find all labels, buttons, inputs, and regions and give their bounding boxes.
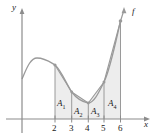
region-label-a2: A2 [74, 107, 83, 118]
region-a1-fill [55, 65, 72, 119]
curve-label-f: f [132, 7, 135, 16]
region-label-a3-index: 3 [97, 112, 100, 118]
region-label-a1-index: 1 [63, 104, 66, 110]
curve-arrow-head [122, 7, 127, 13]
x-tick-label-5: 5 [101, 124, 106, 133]
x-tick-label-2: 2 [52, 124, 57, 133]
x-tick-label-4: 4 [85, 124, 90, 133]
y-axis-arrow-head [20, 8, 25, 14]
x-axis-label: x [144, 120, 148, 129]
region-label-a4-index: 4 [114, 104, 117, 110]
x-tick-label-3: 3 [69, 124, 74, 133]
y-axis-label: y [12, 3, 16, 12]
region-label-a3: A3 [91, 107, 100, 118]
region-label-a4: A4 [108, 99, 117, 110]
dot-x6 [119, 19, 123, 23]
dot-x5 [103, 81, 106, 84]
x-tick-label-6: 6 [118, 124, 123, 133]
region-label-a1: A1 [57, 99, 66, 110]
figure-canvas: y x f 2 3 4 5 6 A1 A2 A3 A4 [0, 0, 162, 137]
region-label-a2-index: 2 [80, 112, 83, 118]
dot-x3 [70, 91, 73, 94]
dot-x2 [53, 63, 56, 66]
dot-x4 [87, 102, 90, 105]
